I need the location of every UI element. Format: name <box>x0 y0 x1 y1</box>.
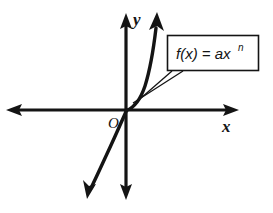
function-curve-group <box>83 12 164 199</box>
power-function-diagram: f(x) = ax n y x O <box>0 0 273 213</box>
origin-label: O <box>108 115 119 131</box>
callout-box-group[interactable]: f(x) = ax n <box>168 36 259 71</box>
figure-container: f(x) = ax n y x O <box>0 0 273 213</box>
callout-leader-line-lower <box>133 71 172 105</box>
callout-formula-base: f(x) = ax <box>176 45 231 62</box>
y-axis-label: y <box>131 10 141 29</box>
x-axis-label: x <box>221 117 231 136</box>
callout-formula-exponent: n <box>238 42 244 53</box>
